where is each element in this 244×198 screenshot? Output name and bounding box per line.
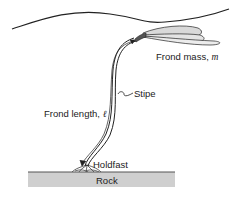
- rock-label: Rock: [96, 175, 118, 186]
- stipe-leader: [118, 92, 133, 96]
- stipe-knot: [135, 33, 146, 42]
- frond-mass-symbol: m: [211, 52, 218, 62]
- frond-mass-label: Frond mass, m: [156, 51, 218, 62]
- kelp-diagram: Frond mass, m Stipe Frond length, ℓ Hold…: [0, 0, 244, 198]
- frond-blades: [143, 26, 220, 45]
- holdfast-label: Holdfast: [93, 159, 128, 170]
- stipe-label: Stipe: [134, 88, 156, 99]
- frond-length-arrow: [80, 40, 135, 166]
- water-surface-line: [12, 9, 229, 29]
- frond-length-label: Frond length, ℓ: [44, 108, 107, 119]
- frond-length-symbol: ℓ: [103, 109, 107, 119]
